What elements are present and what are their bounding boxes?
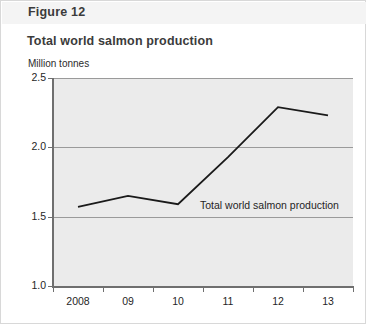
x-tick-label: 2008 [66,295,89,307]
chart-title: Total world salmon production [27,34,213,48]
x-tick-label: 09 [122,295,134,307]
figure-label-band: Figure 12 [2,2,366,24]
y-tick-label: 2.5 [20,71,46,83]
y-tick-label: 2.0 [20,140,46,152]
x-tick-label: 10 [172,295,184,307]
series-chart [53,78,353,286]
y-tick-label: 1.0 [20,279,46,291]
x-tick-mark [353,286,354,292]
x-axis-line [52,286,353,288]
series-inline-label: Total world salmon production [200,199,339,211]
figure-page: Figure 12 Total world salmon production … [0,0,366,324]
figure-label: Figure 12 [28,5,85,19]
y-tick-label: 1.5 [20,210,46,222]
x-tick-label: 12 [272,295,284,307]
x-tick-label: 11 [223,295,234,307]
y-axis-caption: Million tonnes [28,58,89,69]
x-tick-label: 13 [322,295,334,307]
series-line-salmon-production [78,107,328,207]
